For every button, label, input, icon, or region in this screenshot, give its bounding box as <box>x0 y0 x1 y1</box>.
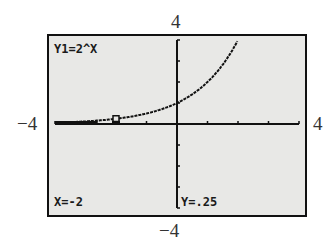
trace-y-value: Y=.25 <box>181 196 217 208</box>
ymax-label: 4 <box>171 12 181 31</box>
xmin-label: −4 <box>17 114 37 133</box>
xmax-label: 4 <box>313 114 323 133</box>
graph-plot <box>49 36 305 215</box>
equation-label: Y1=2^X <box>54 43 97 55</box>
ymin-label: −4 <box>159 221 179 240</box>
trace-cursor <box>112 116 120 125</box>
calculator-screen: Y1=2^X X=-2 Y=.25 <box>47 34 307 217</box>
trace-x-value: X=-2 <box>54 196 83 208</box>
